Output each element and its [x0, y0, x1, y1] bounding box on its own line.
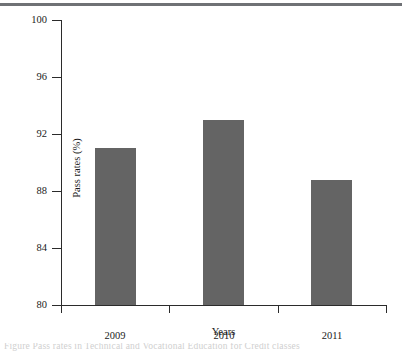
- figure-caption-strip: Figure Pass rates in Technical and Vocat…: [4, 343, 398, 351]
- y-tick-mark: [52, 191, 61, 192]
- top-horizontal-rule: [0, 3, 402, 6]
- y-tick-label: 100: [7, 15, 47, 25]
- y-tick-label: 84: [7, 243, 47, 253]
- bar-2010: [203, 120, 244, 305]
- plot-area: 8084889296100 200920102011 Pass rates (%…: [61, 20, 386, 305]
- y-tick-mark: [52, 20, 61, 21]
- x-tick-mark: [169, 305, 170, 313]
- y-tick-label: 80: [7, 300, 47, 310]
- x-axis-line: [61, 305, 386, 306]
- y-tick-mark: [52, 77, 61, 78]
- y-tick-label: 92: [7, 129, 47, 139]
- x-tick-mark: [61, 305, 62, 313]
- y-tick-mark: [52, 134, 61, 135]
- y-tick-mark: [52, 248, 61, 249]
- bar-2009: [95, 148, 136, 305]
- bar-2011: [311, 180, 352, 305]
- y-axis-title: Pass rates (%): [71, 108, 83, 228]
- figure-container: 8084889296100 200920102011 Pass rates (%…: [0, 0, 402, 351]
- x-axis-title: Years: [61, 326, 386, 338]
- x-tick-mark: [386, 305, 387, 313]
- y-tick-label: 88: [7, 186, 47, 196]
- y-tick-label: 96: [7, 72, 47, 82]
- x-tick-mark: [278, 305, 279, 313]
- figure-caption-text: Figure Pass rates in Technical and Vocat…: [4, 343, 398, 351]
- y-tick-mark: [52, 305, 61, 306]
